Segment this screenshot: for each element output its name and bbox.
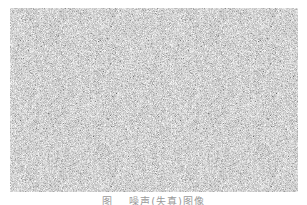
noise-texture <box>10 8 298 192</box>
caption-text: 噪声(失真)图像 <box>129 196 205 205</box>
noise-image <box>10 8 298 192</box>
caption-label: 图 <box>102 196 113 205</box>
figure-caption: 图 噪声(失真)图像 <box>0 196 307 205</box>
